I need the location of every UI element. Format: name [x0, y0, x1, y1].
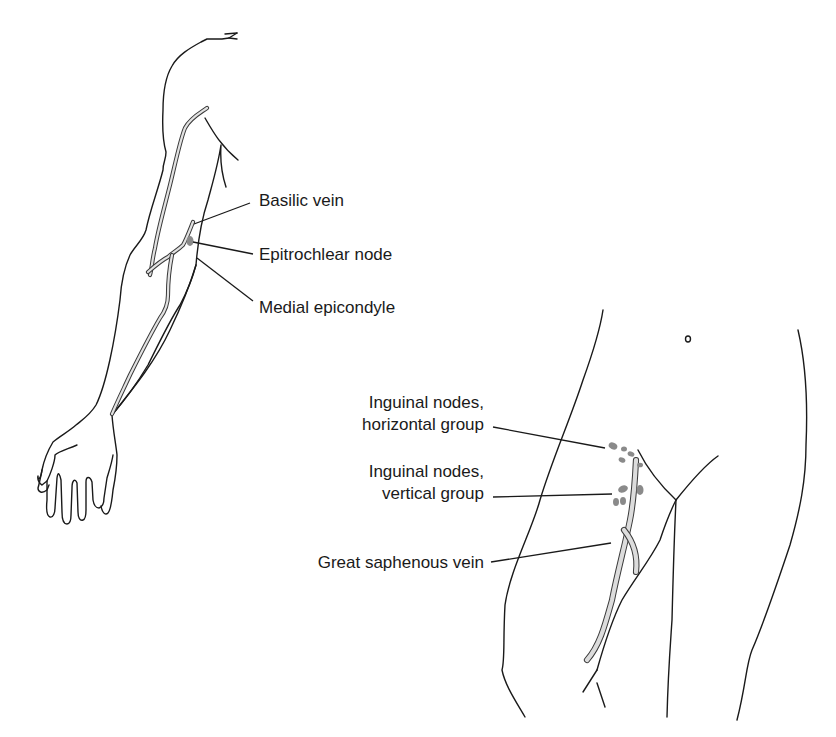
basilic-vein-leader	[194, 203, 250, 224]
label-inguinal-horizontal-line2: horizontal group	[300, 414, 484, 435]
axilla-contour	[205, 118, 238, 160]
arm-outer-contour	[38, 33, 237, 485]
inguinal-node-h4	[618, 456, 626, 463]
medial-epicondyle-leader	[197, 258, 253, 301]
inguinal-vertical-leader	[493, 494, 612, 497]
inguinal-node-h3	[627, 450, 635, 457]
groin-crease	[638, 450, 676, 500]
inner-thigh-contour	[667, 500, 676, 717]
inguinal-node-v4	[620, 497, 626, 505]
label-great-saphenous-vein: Great saphenous vein	[250, 552, 484, 573]
label-epitrochlear-node: Epitrochlear node	[259, 244, 392, 265]
label-inguinal-vertical-line2: vertical group	[300, 483, 484, 504]
anatomy-figure: Basilic vein Epitrochlear node Medial ep…	[0, 0, 836, 737]
thigh-drawing	[491, 310, 807, 720]
arm-drawing	[38, 33, 253, 524]
epitrochlear-node-shape	[187, 236, 194, 246]
great-saphenous-vein-trunk	[587, 460, 636, 660]
inguinal-node-h2	[621, 447, 627, 452]
inguinal-horizontal-leader	[493, 427, 605, 448]
epitrochlear-node-leader	[193, 242, 253, 254]
inner-thigh-crease	[597, 456, 718, 670]
right-hip-contour	[737, 330, 807, 720]
great-saphenous-vein-leader	[491, 543, 611, 562]
forearm-medial-contour	[112, 265, 196, 415]
label-inguinal-vertical-line1: Inguinal nodes,	[300, 461, 484, 482]
inguinal-node-v1	[617, 484, 629, 494]
inguinal-node-v2	[637, 485, 644, 495]
navel	[686, 336, 691, 342]
label-inguinal-horizontal-line1: Inguinal nodes,	[300, 392, 484, 413]
inguinal-node-h5	[637, 463, 643, 468]
inguinal-node-h1	[608, 441, 619, 451]
knee-mark	[583, 670, 605, 707]
inguinal-node-v3	[613, 498, 619, 506]
label-medial-epicondyle: Medial epicondyle	[259, 297, 395, 318]
anatomy-drawing	[0, 0, 836, 737]
label-basilic-vein: Basilic vein	[259, 190, 344, 211]
